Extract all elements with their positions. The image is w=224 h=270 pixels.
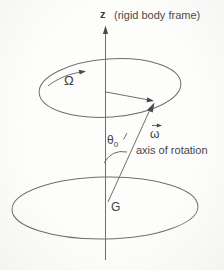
angle-arc: [104, 151, 127, 163]
frame-note-label: (rigid body frame): [114, 10, 200, 21]
rotation-axis-arrowhead-icon: [147, 103, 154, 113]
omega-label: ω: [150, 128, 159, 140]
theta-prime-tick: [124, 133, 128, 140]
rigid-body-rotation-diagram: z (rigid body frame) Ω ω θ0 axis of rota…: [0, 0, 224, 270]
theta-label: θ0: [107, 134, 118, 149]
radius-line: [106, 92, 149, 100]
lower-disk-ellipse: [11, 175, 198, 240]
z-axis-arrowhead-icon: [103, 26, 108, 35]
center-of-mass-label: G: [111, 201, 120, 213]
axis-of-rotation-label: axis of rotation: [136, 145, 208, 156]
precession-omega-label: Ω: [64, 74, 74, 87]
radius-arrowhead-icon: [147, 97, 155, 102]
z-axis-label: z: [100, 9, 106, 20]
theta-subscript: 0: [114, 140, 118, 149]
theta-symbol: θ: [107, 133, 114, 147]
precession-arrowhead-icon: [79, 70, 86, 75]
upper-disk-ellipse: [37, 54, 183, 122]
